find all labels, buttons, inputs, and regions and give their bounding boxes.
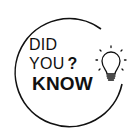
headline-did: DID <box>29 37 57 53</box>
headline-you: YOU? <box>29 56 78 72</box>
question-mark: ? <box>68 55 78 72</box>
headline-you-text: YOU <box>29 55 65 72</box>
headline-know: KNOW <box>32 74 93 93</box>
did-you-know-badge: DID YOU? KNOW <box>0 0 137 136</box>
